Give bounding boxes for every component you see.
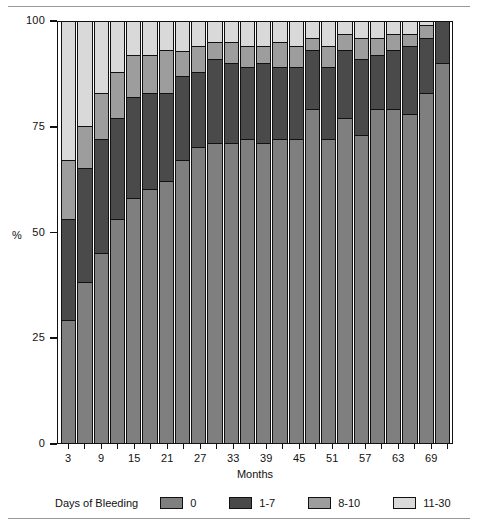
x-tick-label: 27 (194, 452, 207, 464)
bar-stack (61, 22, 76, 443)
x-tick-mark (414, 444, 415, 449)
bar-month-9 (94, 22, 109, 443)
x-tick-mark (167, 444, 168, 449)
bar-segment-11-30 (403, 22, 416, 35)
x-tick-mark (299, 444, 300, 449)
bar-segment-11-30 (306, 22, 319, 39)
x-tick-mark (332, 444, 333, 449)
bar-segment-0 (306, 110, 319, 443)
x-tick-mark (365, 444, 366, 449)
bar-stack (289, 22, 304, 443)
bar-stack (337, 22, 352, 443)
x-tick-label: 3 (65, 452, 71, 464)
bar-segment-0 (290, 140, 303, 443)
bar-segment-0 (143, 190, 156, 443)
bar-segment-11-30 (95, 22, 108, 94)
x-tick-mark (282, 444, 283, 449)
x-tick-label: 33 (227, 452, 240, 464)
x-tick-label: 57 (359, 452, 372, 464)
legend-item-0: 0 (160, 497, 196, 509)
bar-month-42 (272, 22, 287, 443)
bar-segment-11-30 (322, 22, 335, 47)
bar-segment-0 (338, 119, 351, 443)
bar-segment-1-7 (257, 64, 270, 144)
bar-segment-0 (257, 144, 270, 443)
bar-segment-0 (273, 140, 286, 443)
bar-segment-1-7 (111, 119, 124, 220)
y-axis: % 0255075100 (0, 0, 57, 466)
legend-label: 0 (190, 497, 196, 509)
bar-segment-0 (127, 199, 140, 443)
chart-figure: % 0255075100 Months 39152127333945515763… (0, 0, 478, 525)
x-tick-label: 21 (161, 452, 174, 464)
bar-segment-8-10 (208, 43, 221, 60)
bar-segment-11-30 (387, 22, 400, 35)
bar-segment-1-7 (436, 22, 449, 64)
bar-segment-8-10 (78, 127, 91, 169)
bar-segment-1-7 (355, 60, 368, 136)
bar-segment-8-10 (95, 94, 108, 140)
bar-segment-1-7 (225, 64, 238, 144)
y-tick-label: 50 (32, 227, 45, 238)
x-tick-mark (233, 444, 234, 449)
bar-segment-8-10 (355, 39, 368, 60)
bar-stack (321, 22, 336, 443)
x-tick-label: 69 (425, 452, 438, 464)
bar-segment-8-10 (322, 47, 335, 68)
bar-group (58, 22, 452, 443)
y-axis-title: % (12, 229, 22, 241)
bar-stack (77, 22, 92, 443)
bar-month-72 (435, 22, 450, 443)
bar-month-60 (370, 22, 385, 443)
bar-segment-0 (111, 220, 124, 443)
legend-item-8-10: 8-10 (308, 497, 360, 509)
y-tick-mark (50, 443, 57, 445)
x-tick-mark (447, 444, 448, 449)
bar-month-24 (175, 22, 190, 443)
x-tick-label: 51 (326, 452, 339, 464)
bar-segment-8-10 (273, 43, 286, 68)
bar-segment-0 (176, 161, 189, 443)
legend-item-1-7: 1-7 (229, 497, 275, 509)
bar-month-21 (159, 22, 174, 443)
x-tick-label: 9 (98, 452, 104, 464)
x-tick-mark (348, 444, 349, 449)
bar-segment-11-30 (371, 22, 384, 39)
bar-month-18 (142, 22, 157, 443)
x-tick-label: 63 (392, 452, 405, 464)
bar-segment-11-30 (176, 22, 189, 51)
bar-month-3 (61, 22, 76, 443)
bar-month-36 (240, 22, 255, 443)
bar-segment-1-7 (127, 98, 140, 199)
y-tick-label: 0 (39, 438, 45, 449)
bar-segment-8-10 (225, 43, 238, 64)
legend-label: 11-30 (423, 497, 450, 509)
y-tick-label: 100 (26, 15, 45, 26)
bar-segment-8-10 (338, 35, 351, 52)
x-tick-mark (68, 444, 69, 449)
bar-segment-1-7 (273, 68, 286, 140)
bar-stack (126, 22, 141, 443)
bar-segment-0 (420, 94, 433, 443)
bar-month-63 (386, 22, 401, 443)
bar-segment-8-10 (387, 35, 400, 52)
x-tick-mark (315, 444, 316, 449)
bar-stack (419, 22, 434, 443)
bar-month-57 (354, 22, 369, 443)
bar-stack (110, 22, 125, 443)
bar-segment-11-30 (290, 22, 303, 47)
bar-segment-11-30 (160, 22, 173, 51)
legend-swatch-icon (393, 497, 416, 509)
bar-segment-0 (241, 140, 254, 443)
bar-segment-0 (322, 140, 335, 443)
figure-top-rule (8, 6, 470, 7)
bar-segment-1-7 (403, 47, 416, 114)
bar-segment-0 (403, 115, 416, 443)
legend-swatch-icon (308, 497, 331, 509)
bar-segment-0 (387, 110, 400, 443)
bar-segment-11-30 (111, 22, 124, 73)
bar-segment-8-10 (143, 56, 156, 94)
bar-stack (256, 22, 271, 443)
plot-area (57, 21, 453, 444)
bar-segment-1-7 (371, 56, 384, 111)
